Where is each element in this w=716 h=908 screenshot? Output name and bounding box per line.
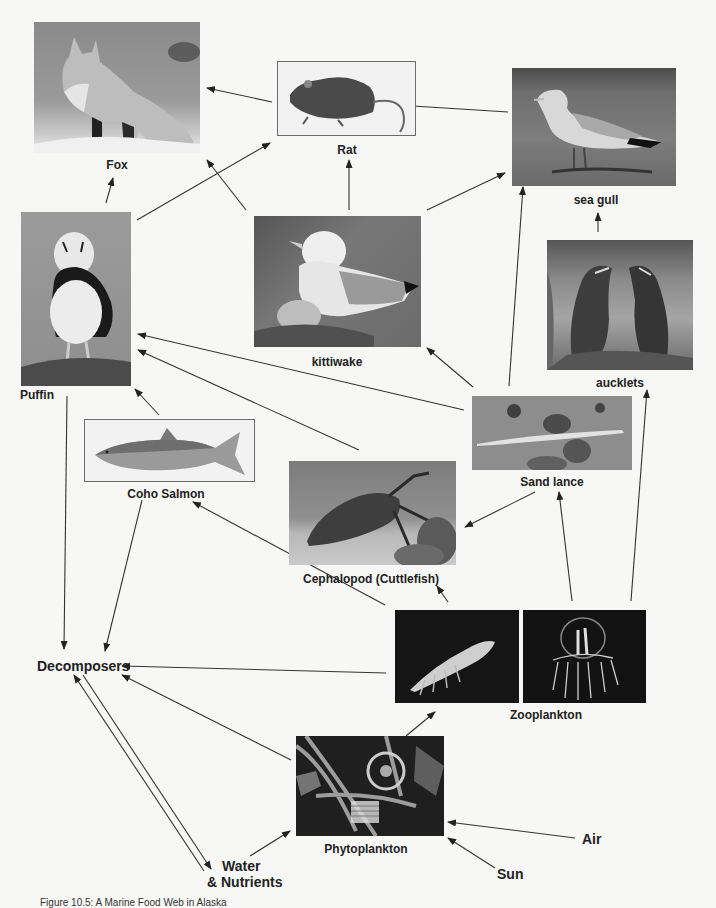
decomposers-label: Decomposers	[37, 658, 130, 674]
nutrients-label: & Nutrients	[207, 874, 282, 890]
arrow-puffin-to-decomposers	[64, 396, 67, 649]
arrow-salmon-to-decomposers	[105, 500, 142, 651]
rat-photo	[277, 61, 416, 136]
arrow-kittiwake-to-seagull	[427, 173, 505, 210]
krill-image	[395, 610, 519, 703]
sun-label: Sun	[497, 866, 523, 882]
arrow-rat-to-fox	[207, 88, 272, 102]
cephalopod-photo	[289, 461, 456, 565]
arrow-puffin-to-rat	[137, 143, 270, 220]
arrow-puffin-to-fox	[106, 178, 113, 203]
puffin-label: Puffin	[20, 388, 54, 402]
cephalopod-label: Cephalopod (Cuttlefish)	[303, 572, 439, 586]
seagull-label: sea gull	[574, 193, 619, 207]
phytoplankton-image	[296, 736, 444, 836]
arrow-zooplankton-to-decomposers	[122, 666, 386, 673]
fox-photo	[34, 22, 200, 153]
arrow-sandlance-to-seagull	[509, 187, 523, 386]
arrow-zooplankton-to-sandlance	[559, 492, 572, 601]
fox-label: Fox	[106, 158, 127, 172]
arrow-zooplankton-to-cephalopod	[437, 586, 448, 602]
kittiwake-label: kittiwake	[312, 355, 363, 369]
jellyfish-image	[523, 610, 646, 703]
sand-lance-label: Sand lance	[520, 475, 583, 489]
arrow-sandlance-to-kittiwake	[427, 348, 473, 387]
coho-salmon-image	[85, 420, 254, 481]
air-label: Air	[582, 831, 601, 847]
auklets-image	[547, 240, 693, 370]
arrow-salmon-to-puffin	[135, 389, 159, 415]
kittiwake-image	[254, 216, 421, 347]
arrow-sandlance-to-cephalopod	[465, 492, 535, 527]
puffin-photo	[21, 212, 131, 386]
seagull-image	[512, 68, 676, 186]
zooplankton-label: Zooplankton	[510, 708, 582, 722]
zooplankton-krill-photo	[395, 610, 519, 703]
cephalopod-image	[289, 461, 456, 565]
arrow-decomposers-to-water	[83, 675, 211, 869]
arrow-phytoplankton-to-zooplankton	[406, 712, 435, 736]
arrow-zooplankton-to-auklets	[631, 390, 647, 601]
phytoplankton-label: Phytoplankton	[324, 842, 407, 856]
sand-lance-image	[472, 396, 632, 470]
zooplankton-jellyfish-photo	[523, 610, 646, 703]
figure-caption: Figure 10.5: A Marine Food Web in Alaska	[40, 897, 227, 908]
arrow-water-to-phytoplankton	[250, 831, 290, 856]
phytoplankton-photo	[296, 736, 444, 836]
fox-image	[34, 22, 200, 153]
arrow-kittiwake-to-fox	[207, 160, 246, 210]
rat-label: Rat	[337, 143, 356, 157]
arrow-phytoplankton-to-decomposers	[122, 675, 291, 760]
auklets-label: aucklets	[596, 376, 644, 390]
coho-salmon-label: Coho Salmon	[127, 487, 204, 501]
rat-image	[278, 62, 415, 135]
kittiwake-photo	[254, 216, 421, 347]
sand-lance-photo	[472, 396, 632, 470]
water-label: Water	[222, 858, 260, 874]
arrow-water-to-decomposers	[74, 675, 204, 871]
arrow-sun-to-phytoplankton	[448, 838, 495, 868]
seagull-photo	[512, 68, 676, 186]
coho-salmon-photo	[84, 419, 255, 482]
puffin-image	[21, 212, 131, 386]
arrow-air-to-phytoplankton	[448, 822, 575, 838]
auklets-photo	[547, 240, 693, 370]
